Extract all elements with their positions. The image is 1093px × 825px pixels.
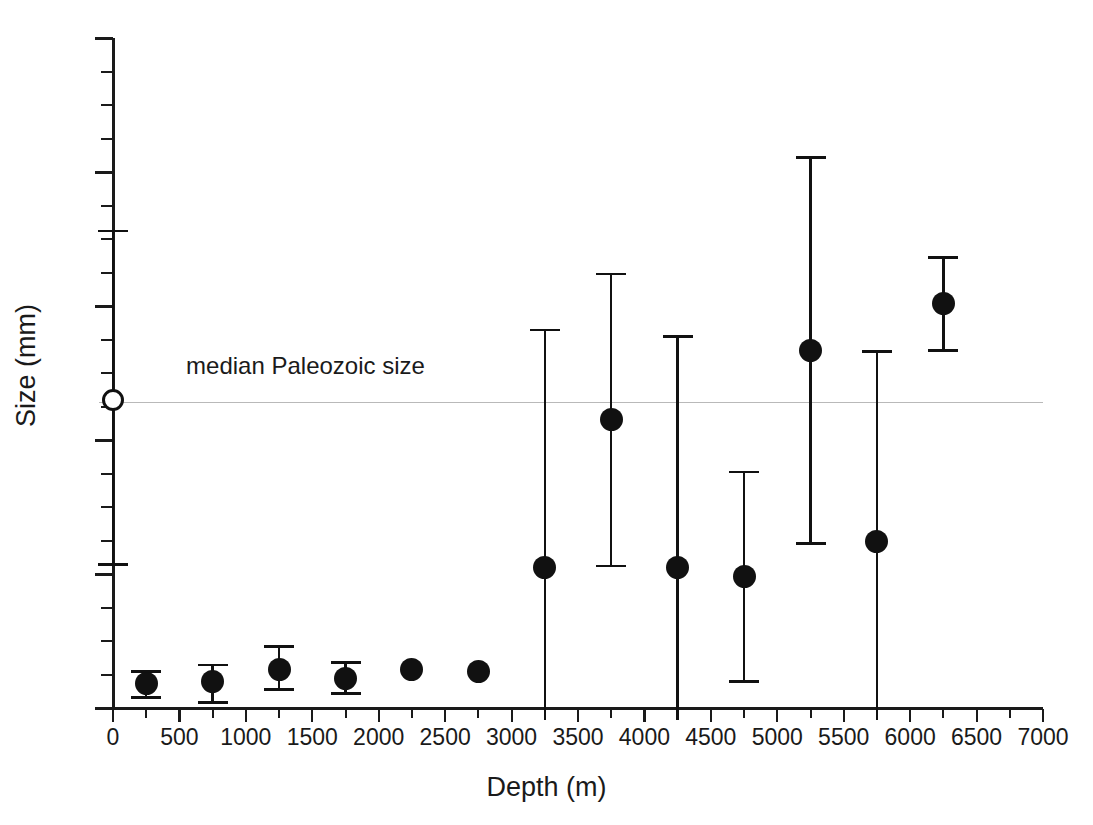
- open-circle-marker: [102, 389, 124, 411]
- x-axis-major-tick: [577, 709, 579, 722]
- y-axis-minor-tick: [101, 138, 113, 140]
- x-axis-major-tick: [976, 709, 978, 722]
- error-bar-line: [676, 335, 678, 720]
- x-axis-minor-tick: [942, 709, 944, 718]
- y-axis-major-tick: [95, 707, 113, 710]
- error-bar-cap-upper: [729, 471, 759, 474]
- x-axis-major-tick: [843, 709, 845, 722]
- error-bar-cap-upper: [98, 230, 128, 233]
- filled-circle-marker: [334, 667, 357, 690]
- error-bar-cap-lower: [331, 692, 361, 695]
- y-axis-minor-tick: [101, 674, 113, 676]
- x-axis-major-tick: [909, 709, 911, 722]
- median-paleozoic-reference-line: [99, 402, 1043, 403]
- x-axis-title: Depth (m): [0, 772, 1093, 803]
- x-axis-minor-tick: [1009, 709, 1011, 718]
- filled-circle-marker: [268, 658, 291, 681]
- x-axis-major-tick: [311, 709, 313, 722]
- x-axis-major-tick: [245, 709, 247, 722]
- x-axis-minor-tick: [411, 709, 413, 718]
- chart-root: Size (mm) 01020304050 050010001500200025…: [0, 0, 1093, 825]
- filled-circle-marker: [400, 658, 423, 681]
- y-axis-title: Size (mm): [11, 66, 42, 666]
- error-bar-cap-upper: [663, 335, 693, 338]
- error-bar-cap-upper: [928, 256, 958, 259]
- x-axis-major-tick: [1042, 709, 1044, 722]
- y-axis-major-tick: [95, 171, 113, 174]
- y-axis-major-tick: [95, 305, 113, 308]
- error-bar-cap-lower: [264, 688, 294, 691]
- error-bar-cap-upper: [796, 156, 826, 159]
- plot-area: 01020304050 0500100015002000250030003500…: [113, 38, 1043, 708]
- error-bar-cap-upper: [331, 661, 361, 664]
- filled-circle-marker: [865, 530, 888, 553]
- y-axis-major-tick: [95, 439, 113, 442]
- y-axis-major-tick: [95, 37, 113, 40]
- y-axis-major-tick: [95, 573, 113, 576]
- error-bar-cap-upper: [530, 329, 560, 332]
- y-axis-minor-tick: [101, 71, 113, 73]
- x-axis-minor-tick: [477, 709, 479, 718]
- error-bar-cap-lower: [729, 680, 759, 683]
- error-bar-cap-lower: [198, 701, 228, 704]
- error-bar-line: [544, 329, 546, 720]
- x-axis-tick-label: 7000: [988, 726, 1093, 749]
- filled-circle-marker: [201, 670, 224, 693]
- x-axis-major-tick: [643, 709, 645, 722]
- y-axis-minor-tick: [101, 205, 113, 207]
- x-axis-major-tick: [178, 709, 180, 722]
- y-axis-minor-tick: [101, 607, 113, 609]
- error-bar-cap-lower: [596, 565, 626, 568]
- error-bar-cap-upper: [198, 664, 228, 667]
- error-bar-cap-lower: [796, 542, 826, 545]
- x-axis-minor-tick: [345, 709, 347, 718]
- error-bar-cap-upper: [264, 645, 294, 648]
- y-axis-title-container: Size (mm): [0, 0, 60, 825]
- x-axis-minor-tick: [278, 709, 280, 718]
- filled-circle-marker: [533, 556, 556, 579]
- x-axis-major-tick: [444, 709, 446, 722]
- x-axis-minor-tick: [743, 709, 745, 718]
- y-axis-minor-tick: [101, 104, 113, 106]
- x-axis-major-tick: [112, 709, 114, 722]
- filled-circle-marker: [733, 565, 756, 588]
- error-bar-cap-upper: [596, 273, 626, 276]
- filled-circle-marker: [467, 660, 490, 683]
- x-axis-major-tick: [710, 709, 712, 722]
- y-axis-minor-tick: [101, 640, 113, 642]
- x-axis-minor-tick: [145, 709, 147, 718]
- error-bar-cap-lower: [131, 696, 161, 699]
- filled-circle-marker: [666, 556, 689, 579]
- x-axis-minor-tick: [610, 709, 612, 718]
- filled-circle-marker: [135, 672, 158, 695]
- filled-circle-marker: [799, 339, 822, 362]
- error-bar-cap-lower: [98, 563, 128, 566]
- filled-circle-marker: [600, 408, 623, 431]
- x-axis-minor-tick: [810, 709, 812, 718]
- x-axis-minor-tick: [212, 709, 214, 718]
- median-paleozoic-label: median Paleozoic size: [186, 352, 425, 380]
- error-bar-cap-lower: [928, 349, 958, 352]
- x-axis-major-tick: [378, 709, 380, 722]
- x-axis-major-tick: [511, 709, 513, 722]
- filled-circle-marker: [932, 292, 955, 315]
- x-axis-major-tick: [776, 709, 778, 722]
- error-bar-cap-upper: [862, 350, 892, 353]
